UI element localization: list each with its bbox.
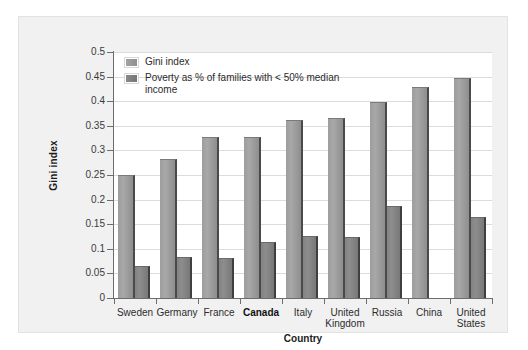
y-tick-label: 0: [59, 293, 105, 303]
x-tick-mark: [114, 298, 115, 304]
x-tick-mark: [324, 298, 325, 304]
y-tick-mark: [107, 249, 113, 250]
y-tick-mark: [107, 298, 113, 299]
x-tick-mark: [198, 298, 199, 304]
legend-item: Gini index: [125, 56, 375, 68]
gridline: [114, 150, 492, 151]
y-tick-mark: [107, 175, 113, 176]
y-tick-mark: [107, 150, 113, 151]
bar-poverty-rate: [135, 266, 150, 298]
chart-legend: Gini indexPoverty as % of families with …: [125, 56, 375, 100]
y-axis-line: [113, 51, 114, 299]
y-tick-label: 0.2: [59, 195, 105, 205]
x-tick-mark: [282, 298, 283, 304]
bar-poverty-rate: [177, 257, 192, 298]
bar-gini-index: [370, 102, 387, 298]
x-axis-title: Country: [114, 333, 492, 344]
y-tick-label: 0.15: [59, 219, 105, 229]
legend-item: Poverty as % of families with < 50% medi…: [125, 72, 375, 96]
y-tick-label: 0.45: [59, 72, 105, 82]
bar-poverty-rate: [471, 217, 486, 298]
bar-poverty-rate: [387, 206, 402, 298]
y-tick-label: 0.5: [59, 47, 105, 57]
bar-gini-index: [118, 175, 135, 298]
x-tick-mark: [450, 298, 451, 304]
legend-swatch-gini: [125, 58, 138, 67]
bar-poverty-rate: [261, 242, 276, 298]
y-tick-label: 0.05: [59, 268, 105, 278]
y-tick-label: 0.1: [59, 244, 105, 254]
x-category-label: United States: [444, 307, 498, 329]
y-tick-label: 0.35: [59, 121, 105, 131]
bar-gini-index: [202, 137, 219, 298]
y-tick-mark: [107, 126, 113, 127]
bar-gini-index: [160, 159, 177, 298]
gridline: [114, 101, 492, 102]
y-tick-label: 0.3: [59, 145, 105, 155]
legend-label: Poverty as % of families with < 50% medi…: [145, 72, 360, 96]
gridline: [114, 126, 492, 127]
y-tick-label: 0.25: [59, 170, 105, 180]
y-axis-tick-labels: 00.050.10.150.20.250.30.350.40.450.5: [57, 17, 105, 350]
bar-gini-index: [454, 78, 471, 298]
x-tick-mark: [366, 298, 367, 304]
bar-gini-index: [286, 120, 303, 298]
y-tick-mark: [107, 224, 113, 225]
bar-gini-index: [328, 118, 345, 298]
bar-gini-index: [412, 87, 429, 298]
y-tick-mark: [107, 273, 113, 274]
x-tick-mark: [408, 298, 409, 304]
y-tick-mark: [107, 77, 113, 78]
x-tick-mark: [492, 298, 493, 304]
bar-poverty-rate: [303, 236, 318, 298]
bar-poverty-rate: [219, 258, 234, 298]
y-tick-mark: [107, 200, 113, 201]
y-tick-label: 0.4: [59, 96, 105, 106]
x-axis-line: [113, 298, 493, 299]
chart-panel: 00.050.10.150.20.250.30.350.40.450.5 Gin…: [18, 16, 508, 333]
gridline: [114, 52, 492, 53]
y-axis-title: Gini index: [48, 121, 59, 211]
legend-swatch-poverty: [125, 74, 138, 83]
legend-label: Gini index: [145, 56, 189, 68]
bar-poverty-rate: [345, 237, 360, 298]
y-tick-mark: [107, 101, 113, 102]
x-tick-mark: [240, 298, 241, 304]
y-tick-mark: [107, 52, 113, 53]
x-tick-mark: [156, 298, 157, 304]
chart-figure: 00.050.10.150.20.250.30.350.40.450.5 Gin…: [0, 0, 528, 350]
bar-gini-index: [244, 137, 261, 298]
